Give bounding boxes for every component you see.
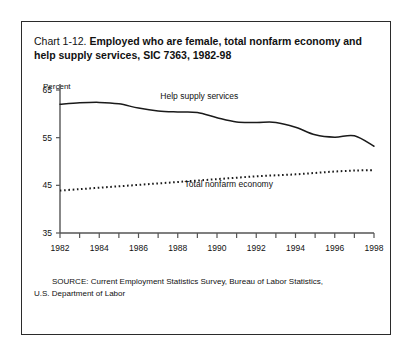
source-note: SOURCE: Current Employment Statistics Su… — [34, 276, 378, 300]
y-tick-label: 45 — [43, 180, 53, 190]
x-tick-label: 1998 — [365, 243, 384, 253]
x-tick-label: 1996 — [325, 243, 344, 253]
series-label-2: Total nonfarm economy — [185, 179, 274, 189]
x-tick-label: 1984 — [90, 243, 109, 253]
x-tick-labels: 198219841986198819901992199419961998 — [51, 243, 384, 253]
source-line-2: U.S. Department of Labor — [34, 289, 125, 298]
series-annotations: Help supply servicesTotal nonfarm econom… — [160, 91, 273, 190]
source-line-1: SOURCE: Current Employment Statistics Su… — [52, 277, 323, 286]
data-series-group — [60, 102, 374, 190]
y-tick-label: 55 — [43, 133, 53, 143]
y-tick-label: 35 — [43, 228, 53, 238]
x-tick-label: 1990 — [208, 243, 227, 253]
chart-axes — [56, 84, 374, 238]
y-tick-label: 65 — [43, 85, 53, 95]
series-line-1 — [60, 102, 374, 146]
x-tick-label: 1994 — [286, 243, 305, 253]
y-tick-labels: 35455565 — [43, 85, 53, 238]
series-label-1: Help supply services — [160, 91, 238, 101]
x-tick-label: 1986 — [129, 243, 148, 253]
chart-frame: Chart 1-12. Employed who are female, tot… — [21, 21, 391, 335]
x-tick-label: 1988 — [168, 243, 187, 253]
chart-page: Chart 1-12. Employed who are female, tot… — [0, 0, 413, 358]
x-tick-label: 1982 — [51, 243, 70, 253]
x-tick-label: 1992 — [247, 243, 266, 253]
